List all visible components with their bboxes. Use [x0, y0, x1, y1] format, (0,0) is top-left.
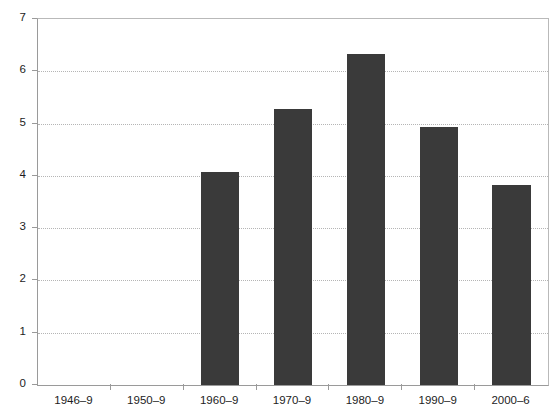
bar: [201, 172, 239, 385]
bar: [420, 127, 458, 385]
bar: [347, 54, 385, 385]
y-axis-tick: [32, 384, 37, 385]
x-axis-tick: [256, 384, 257, 390]
y-axis-label: 0: [0, 378, 26, 390]
gridline: [38, 71, 548, 72]
y-axis-tick: [32, 70, 37, 71]
plot-area: [37, 18, 549, 386]
x-axis-tick: [401, 384, 402, 390]
bar-chart: 01234567 1946–91950–91960–91970–91980–91…: [0, 0, 558, 418]
x-axis-label: 1980–9: [346, 395, 384, 407]
y-axis-tick: [32, 227, 37, 228]
y-axis-label: 1: [0, 326, 26, 338]
x-axis-label: 1946–9: [54, 395, 92, 407]
x-axis-tick: [474, 384, 475, 390]
x-axis-tick: [183, 384, 184, 390]
y-axis-tick: [32, 175, 37, 176]
x-axis-label: 1950–9: [127, 395, 165, 407]
y-axis-tick: [32, 279, 37, 280]
y-axis-label: 6: [0, 64, 26, 76]
y-axis-label: 5: [0, 117, 26, 129]
bar: [492, 185, 530, 385]
x-axis-tick: [110, 384, 111, 390]
y-axis-label: 4: [0, 169, 26, 181]
y-axis-tick: [32, 332, 37, 333]
y-axis-label: 3: [0, 221, 26, 233]
x-axis-tick: [328, 384, 329, 390]
y-axis-tick: [32, 123, 37, 124]
x-axis-label: 1990–9: [419, 395, 457, 407]
y-axis-label: 2: [0, 273, 26, 285]
bar: [274, 109, 312, 385]
x-axis-label: 2000–6: [491, 395, 529, 407]
x-axis-label: 1970–9: [273, 395, 311, 407]
y-axis-label: 7: [0, 12, 26, 24]
y-axis-tick: [32, 18, 37, 19]
x-axis-label: 1960–9: [200, 395, 238, 407]
